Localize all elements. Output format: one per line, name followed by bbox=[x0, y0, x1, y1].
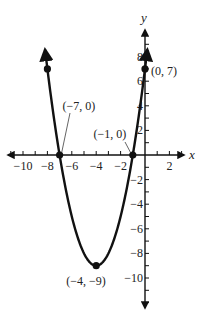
y-tick-label: −4 bbox=[130, 197, 143, 211]
label-x-intercept-neg1: (−1, 0) bbox=[94, 127, 127, 141]
x-tick-label: 2 bbox=[166, 159, 172, 173]
point-marker bbox=[44, 65, 51, 72]
point-marker bbox=[93, 262, 100, 269]
label-y-intercept: (0, 7) bbox=[151, 64, 177, 78]
point-marker bbox=[56, 151, 63, 158]
x-tick-label: −8 bbox=[41, 159, 54, 173]
leader-line-neg1 bbox=[125, 142, 131, 153]
x-tick-label: −4 bbox=[90, 159, 103, 173]
parabola-graph: xy −10−8−6−4−228642−2−4−6−8−10 (−7, 0)(−… bbox=[0, 0, 200, 319]
point-labels: (−7, 0)(−1, 0)(−4, −9)(0, 7) bbox=[62, 64, 177, 288]
point-marker bbox=[141, 65, 148, 72]
leader-line-neg7 bbox=[62, 113, 70, 153]
y-tick-label: −6 bbox=[130, 222, 143, 236]
x-axis-label: x bbox=[188, 147, 195, 162]
x-tick-label: −6 bbox=[65, 159, 78, 173]
y-tick-label: −2 bbox=[130, 173, 143, 187]
label-vertex: (−4, −9) bbox=[66, 274, 106, 288]
y-tick-label: 8 bbox=[137, 50, 143, 64]
label-x-intercept-neg7: (−7, 0) bbox=[63, 99, 96, 113]
y-tick-label: −10 bbox=[124, 271, 143, 285]
y-axis-label: y bbox=[139, 10, 147, 25]
x-tick-label: −10 bbox=[14, 159, 33, 173]
x-tick-label: −2 bbox=[114, 159, 127, 173]
y-tick-label: −8 bbox=[130, 246, 143, 260]
